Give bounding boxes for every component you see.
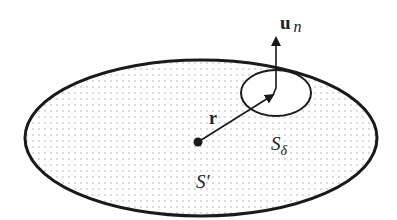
diagram-canvas: un r Sδ S′ <box>0 0 397 220</box>
position-vector-label: r <box>209 108 217 128</box>
normal-vector-label: un <box>280 12 302 35</box>
large-region-label: S′ <box>196 171 211 192</box>
large-region-ellipse <box>25 60 377 216</box>
